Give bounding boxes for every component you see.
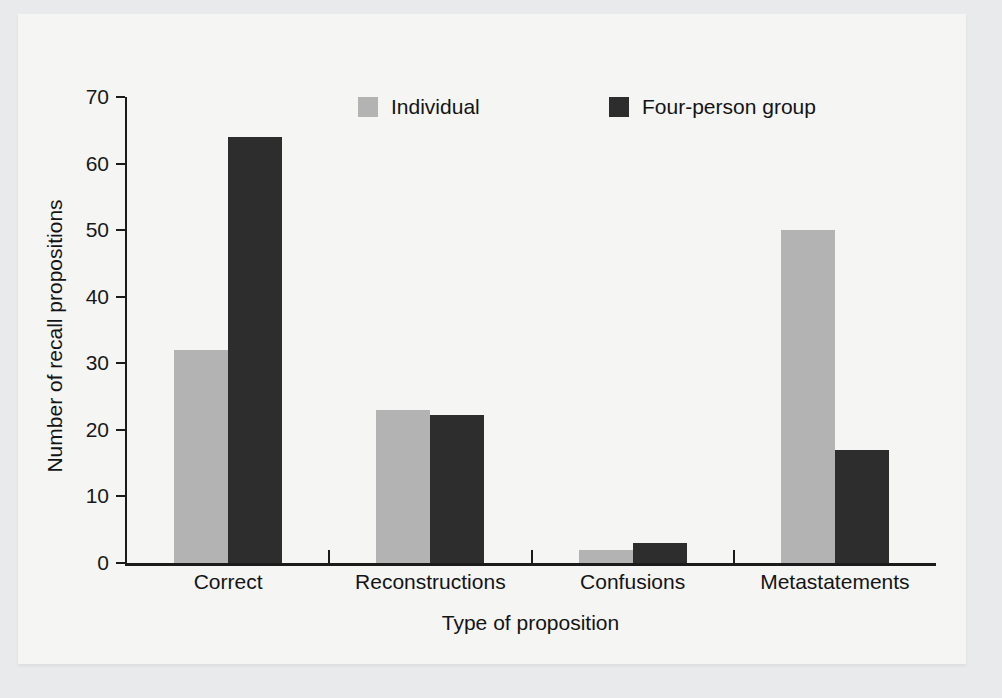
y-axis-tick [116, 296, 125, 298]
y-axis-tick [116, 429, 125, 431]
y-axis-tick-label: 20 [63, 419, 109, 440]
bar-chart-plot-area: IndividualFour-person group 010203040506… [18, 14, 966, 664]
y-axis-tick [116, 96, 125, 98]
bar-reconstructions-four-person-group [430, 415, 484, 563]
y-axis-tick [116, 562, 125, 564]
y-axis-tick-label: 30 [63, 352, 109, 373]
bar-reconstructions-individual [376, 410, 430, 563]
x-axis-tick [733, 550, 735, 563]
y-axis-tick-label: 0 [63, 552, 109, 573]
y-axis-tick [116, 362, 125, 364]
bar-metastatements-four-person-group [835, 450, 889, 563]
legend-item-four-person-group[interactable]: Four-person group [609, 96, 816, 117]
y-axis-tick [116, 229, 125, 231]
figure-frame: IndividualFour-person group 010203040506… [18, 14, 966, 664]
legend-label: Individual [391, 96, 480, 117]
legend-item-individual[interactable]: Individual [358, 96, 480, 117]
y-axis-tick-label: 70 [63, 86, 109, 107]
legend-label: Four-person group [642, 96, 816, 117]
bar-confusions-four-person-group [633, 543, 687, 563]
legend-swatch-icon [358, 97, 378, 117]
bar-metastatements-individual [781, 230, 835, 563]
y-axis-tick-label: 60 [63, 153, 109, 174]
y-axis-tick-label: 50 [63, 219, 109, 240]
y-axis-tick-label: 40 [63, 286, 109, 307]
y-axis-tick-label: 10 [63, 485, 109, 506]
y-axis-title: Number of recall propositions [43, 136, 67, 536]
legend-swatch-icon [609, 97, 629, 117]
x-axis-title: Type of proposition [125, 611, 936, 635]
y-axis-tick [116, 495, 125, 497]
x-axis-tick [531, 550, 533, 563]
bar-confusions-individual [579, 550, 633, 563]
x-axis-category-label: Metastatements [715, 570, 955, 594]
bar-correct-four-person-group [228, 137, 282, 563]
x-axis-tick [328, 550, 330, 563]
bar-correct-individual [174, 350, 228, 563]
y-axis-line [125, 97, 127, 565]
y-axis-tick [116, 163, 125, 165]
x-axis-line [125, 563, 936, 566]
